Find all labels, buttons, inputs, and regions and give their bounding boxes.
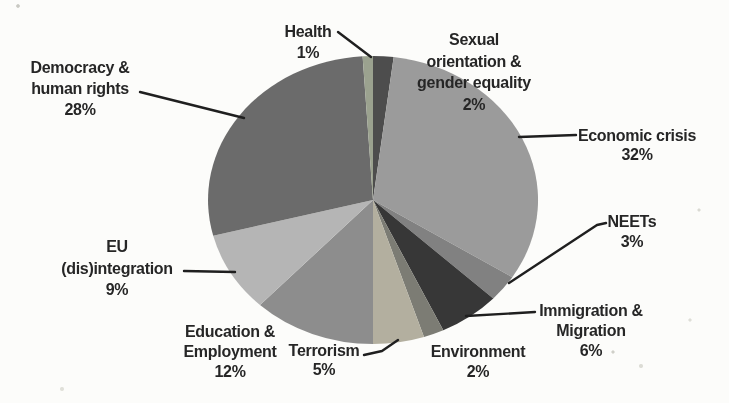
slice-label-education-employment: Education &Employment12% xyxy=(183,323,277,380)
slice-label-eu-dis-integration: EU(dis)integration9% xyxy=(61,238,173,298)
scanned-page: Sexualorientation &gender equality2%Econ… xyxy=(0,0,729,403)
slice-label-democracy-human-rights: Democracy &human rights28% xyxy=(31,59,131,118)
leader-line-eu-dis-integration xyxy=(184,271,235,272)
pie-chart: Sexualorientation &gender equality2%Econ… xyxy=(0,0,729,403)
leader-line-economic-crisis xyxy=(519,135,576,137)
slice-label-health: Health1% xyxy=(284,23,331,61)
slice-label-neets: NEETs3% xyxy=(608,213,657,250)
leader-line-health xyxy=(338,32,371,57)
slice-label-terrorism: Terrorism5% xyxy=(289,342,360,378)
slice-label-immigration-migration: Immigration &Migration6% xyxy=(539,302,643,359)
leader-line-immigration-migration xyxy=(466,312,535,316)
slice-label-economic-crisis: Economic crisis32% xyxy=(578,127,697,163)
slice-label-environment: Environment2% xyxy=(431,343,526,380)
leader-line-democracy-human-rights xyxy=(140,92,244,118)
